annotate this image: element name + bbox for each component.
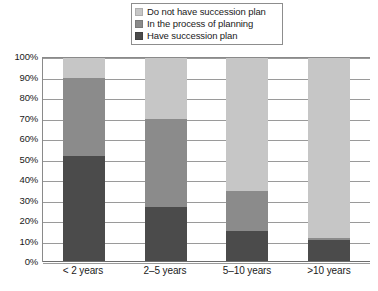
bar-segment[interactable] bbox=[226, 191, 268, 232]
y-axis-tick-label: 60% bbox=[2, 134, 38, 144]
legend-label: In the process of planning bbox=[147, 18, 253, 29]
gridline bbox=[43, 263, 370, 264]
bar-segment[interactable] bbox=[63, 58, 105, 78]
legend-label: Do not have succession plan bbox=[147, 6, 266, 17]
bar-column[interactable] bbox=[63, 58, 105, 262]
y-axis: 0%10%20%30%40%50%60%70%80%90%100% bbox=[0, 57, 38, 262]
y-axis-tick-label: 100% bbox=[2, 52, 38, 62]
x-axis-tick-label: >10 years bbox=[294, 265, 364, 277]
y-axis-tick-label: 30% bbox=[2, 196, 38, 206]
y-axis-tick-label: 10% bbox=[2, 237, 38, 247]
y-axis-tick-label: 90% bbox=[2, 73, 38, 83]
legend-item-have-succession-plan: Have succession plan bbox=[135, 30, 278, 41]
y-axis-tick-label: 80% bbox=[2, 93, 38, 103]
bar-segment[interactable] bbox=[226, 58, 268, 191]
y-axis-tick-label: 50% bbox=[2, 155, 38, 165]
bar-column[interactable] bbox=[145, 58, 187, 262]
legend-item-in-the-process-of-planning: In the process of planning bbox=[135, 18, 278, 29]
x-axis-tick-label: 5–10 years bbox=[212, 265, 282, 277]
y-axis-tick-label: 40% bbox=[2, 175, 38, 185]
bar-segment[interactable] bbox=[63, 156, 105, 262]
x-axis-tick-label: < 2 years bbox=[48, 265, 118, 277]
bar-column[interactable] bbox=[226, 58, 268, 262]
legend-swatch-medium-icon bbox=[135, 20, 143, 28]
bar-column[interactable] bbox=[308, 58, 350, 262]
legend-item-do-not-have-succession-plan: Do not have succession plan bbox=[135, 6, 278, 17]
y-axis-tick-label: 0% bbox=[2, 257, 38, 267]
legend-swatch-light-icon bbox=[135, 8, 143, 16]
x-axis: < 2 years2–5 years5–10 years>10 years bbox=[42, 265, 370, 277]
x-axis-line bbox=[43, 261, 370, 262]
bar-segment[interactable] bbox=[63, 78, 105, 156]
bar-segment[interactable] bbox=[226, 231, 268, 262]
plot-area bbox=[42, 57, 370, 262]
bar-segment[interactable] bbox=[145, 58, 187, 119]
y-axis-tick-label: 20% bbox=[2, 216, 38, 226]
legend-label: Have succession plan bbox=[147, 30, 237, 41]
x-axis-tick-label: 2–5 years bbox=[130, 265, 200, 277]
bar-segment[interactable] bbox=[145, 207, 187, 262]
bar-series-container bbox=[43, 58, 370, 262]
y-axis-tick-label: 70% bbox=[2, 114, 38, 124]
bar-segment[interactable] bbox=[308, 240, 350, 262]
legend-swatch-dark-icon bbox=[135, 32, 143, 40]
bar-segment[interactable] bbox=[308, 58, 350, 238]
chart-legend: Do not have succession plan In the proce… bbox=[131, 3, 283, 45]
bar-segment[interactable] bbox=[145, 119, 187, 207]
